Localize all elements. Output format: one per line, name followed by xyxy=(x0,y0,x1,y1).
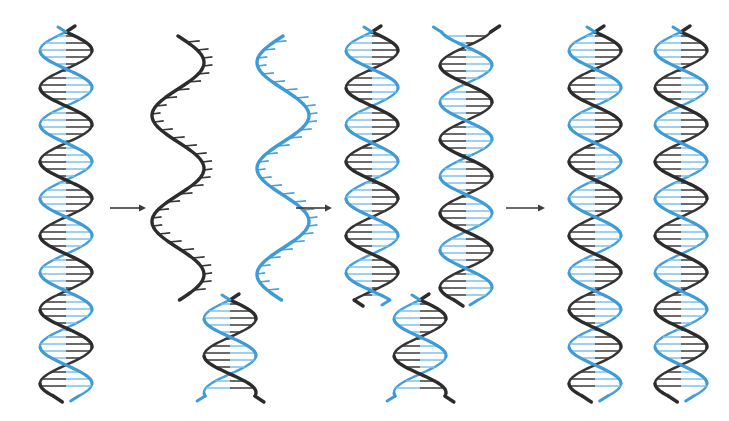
dna-replication-canvas xyxy=(0,0,729,421)
dna-replication-figure xyxy=(0,0,729,421)
